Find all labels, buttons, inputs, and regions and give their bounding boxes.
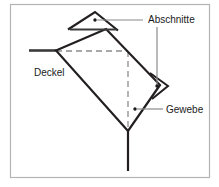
label-abschnitte: Abschnitte [148,14,195,25]
dot-marker-bottom-edge [133,107,136,110]
diagram-canvas: Abschnitte Deckel Gewebe [0,0,219,187]
label-deckel: Deckel [34,67,65,78]
dot-marker-right-flap [155,84,158,87]
label-gewebe: Gewebe [166,104,204,115]
dot-marker-top-flap [93,18,96,21]
